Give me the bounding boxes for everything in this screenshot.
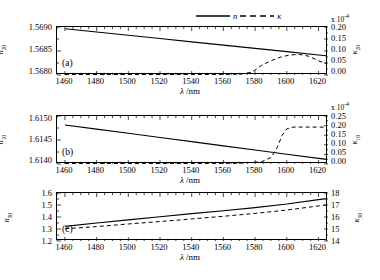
ytick-c-left-0: 1.2 [14,236,52,246]
xtick-label: 1560 [208,242,236,252]
xtick-label: 1580 [240,76,268,86]
xtick-label: 1480 [82,242,110,252]
ytick-a-right-0: 0.00 [331,66,346,76]
ytick-a-left-0: 1.5680 [8,66,52,76]
yaxis-label-c-left: n30 [1,213,13,223]
legend-solid-swatch [196,13,230,19]
xtick-label: 1520 [145,76,173,86]
xtick-label: 1500 [113,76,141,86]
series-κ [65,54,327,74]
ytick-a-right-1: 0.05 [331,55,346,65]
yaxis-label-b-right: κ10 [349,135,361,144]
ytick-c-left-1: 1.3 [14,224,52,234]
xtick-label: 1480 [82,165,110,175]
xtick-label: 1560 [208,76,236,86]
xtick-label: 1620 [303,242,331,252]
panel-b: x 10-4 n10 κ10 1.6150 1.6145 1.6140 0.25… [0,92,380,185]
xtick-label: 1600 [272,165,300,175]
ytick-c-right-3: 17 [331,200,340,210]
panel-c: n30 κ30 1.6 1.5 1.4 1.3 1.2 18 17 16 15 … [0,182,380,280]
plot-area-b [57,116,328,164]
plot-frame-a [56,26,327,74]
panel-tag-b: (b) [62,147,73,157]
plot-frame-b [56,115,327,163]
plot-frame-c [56,192,327,240]
ytick-c-left-3: 1.5 [14,200,52,210]
ytick-c-left-2: 1.4 [14,212,52,222]
ytick-b-left-0: 1.6140 [8,155,52,165]
panel-a: n κ x 10-4 n20 κ20 1.5690 1.5685 1.5680 … [0,0,380,95]
xtick-label: 1600 [272,242,300,252]
xtick-label: 1620 [303,165,331,175]
ytick-b-left-2: 1.6150 [8,113,52,123]
xtick-label: 1480 [82,76,110,86]
xtick-label: 1460 [50,76,78,86]
ytick-a-right-4: 0.20 [331,22,346,32]
ytick-c-right-1: 15 [331,224,340,234]
legend: n κ [196,11,281,21]
series-κ [65,127,327,163]
xtick-label: 1540 [177,76,205,86]
ytick-b-right-0: 0.00 [331,156,346,166]
ytick-a-left-1: 1.5685 [8,44,52,54]
legend-label-kappa: κ [277,11,281,21]
ytick-c-right-4: 18 [331,188,340,198]
ytick-a-right-3: 0.15 [331,33,346,43]
ytick-c-left-4: 1.6 [14,188,52,198]
right-axis-exponent-b: x 10-4 [331,101,349,112]
ytick-c-right-0: 14 [331,236,340,246]
xtick-label: 1460 [50,165,78,175]
xtick-label: 1520 [145,165,173,175]
plot-area-a [57,27,328,75]
xtick-label: 1540 [177,165,205,175]
panel-tag-c: (c) [62,224,73,234]
xtick-label: 1580 [240,242,268,252]
ytick-c-right-2: 16 [331,212,340,222]
ytick-a-right-2: 0.10 [331,44,346,54]
series-κ [65,205,327,229]
xtick-label: 1620 [303,76,331,86]
yaxis-label-b-left: n10 [0,135,7,145]
legend-dashed-swatch [240,13,274,19]
panel-tag-a: (a) [62,58,73,68]
xtick-label: 1580 [240,165,268,175]
series-n [65,29,327,56]
ytick-b-left-1: 1.6145 [8,134,52,144]
legend-label-n: n [233,11,237,21]
xaxis-title-c: λ /nm [130,252,250,262]
yaxis-label-a-left: n20 [0,45,7,55]
plot-area-c [57,193,328,241]
xtick-label: 1500 [113,165,141,175]
xtick-label: 1600 [272,76,300,86]
series-n [65,125,327,159]
yaxis-label-c-right: κ30 [351,213,363,222]
xtick-label: 1540 [177,242,205,252]
figure-root: n κ x 10-4 n20 κ20 1.5690 1.5685 1.5680 … [0,0,380,280]
ytick-a-left-2: 1.5690 [8,22,52,32]
series-n [65,199,327,227]
xtick-label: 1460 [50,242,78,252]
yaxis-label-a-right: κ20 [349,45,361,54]
xtick-label: 1560 [208,165,236,175]
xtick-label: 1520 [145,242,173,252]
xtick-label: 1500 [113,242,141,252]
